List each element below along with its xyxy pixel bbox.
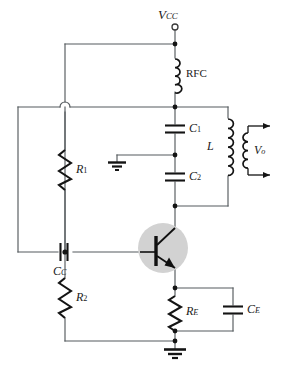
label-ce: CE: [247, 303, 260, 315]
npn-transistor: [138, 223, 188, 273]
label-cc-subscript: C: [61, 268, 66, 277]
label-cc-symbol: C: [53, 264, 61, 278]
node-base-bias: [62, 249, 67, 254]
schematic-canvas: [0, 0, 282, 368]
capacitor-c2: [165, 174, 185, 181]
label-rfc: RFC: [186, 68, 207, 79]
node-tank-bottom: [173, 204, 178, 209]
label-c2: C2: [189, 170, 201, 182]
label-c1-symbol: C: [189, 121, 197, 135]
label-r1-subscript: 1: [83, 166, 87, 175]
label-c2-subscript: 2: [197, 173, 201, 182]
label-rfc-symbol: RFC: [186, 67, 207, 79]
label-r2-subscript: 2: [83, 294, 87, 303]
tank-inductor-primary: [228, 119, 233, 175]
label-vo: Vo: [254, 144, 265, 156]
label-vcc: VCC: [158, 8, 178, 21]
node-emitter-ground: [173, 329, 178, 334]
resistor-re: [169, 296, 181, 331]
label-l: L: [207, 140, 214, 152]
node-main-ground: [173, 339, 178, 344]
output-arrow-bottom: [263, 172, 270, 178]
label-ce-symbol: C: [247, 302, 255, 316]
node-vcc: [173, 42, 178, 47]
wire-crossover-hop: [60, 102, 70, 107]
label-r2: R2: [76, 291, 87, 303]
capacitor-c1: [165, 126, 185, 133]
label-re-subscript: E: [193, 308, 198, 317]
main-ground-symbol: [164, 350, 186, 359]
label-r1: R1: [76, 163, 87, 175]
bypass-capacitor-ce: [223, 307, 243, 314]
rfc-inductor: [175, 59, 182, 93]
circuit-schematic: VCC RFC C1 C2 L Vo R1 R2 CC RE CE: [0, 0, 282, 368]
label-l-symbol: L: [207, 139, 214, 153]
vcc-open-terminal: [172, 24, 178, 30]
label-vcc-symbol: V: [158, 7, 166, 22]
resistor-r2: [59, 278, 71, 318]
label-vo-subscript: o: [261, 147, 265, 156]
label-c1-subscript: 1: [197, 125, 201, 134]
label-vcc-subscript: CC: [166, 11, 178, 21]
node-c1-c2-mid: [173, 153, 178, 158]
label-c2-symbol: C: [189, 169, 197, 183]
label-c1: C1: [189, 122, 201, 134]
output-arrow-top: [263, 123, 270, 129]
label-cc: CC: [53, 265, 66, 277]
label-ce-subscript: E: [255, 306, 260, 315]
node-emitter: [173, 286, 178, 291]
label-re: RE: [186, 305, 198, 317]
signal-ground-symbol: [108, 163, 126, 171]
node-tank-top: [173, 105, 178, 110]
